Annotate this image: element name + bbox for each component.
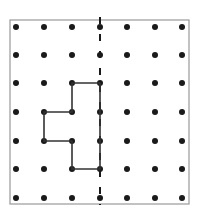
grid-dot [97, 195, 103, 201]
grid-dot [13, 24, 19, 30]
grid-dot [69, 24, 75, 30]
grid-dot [69, 195, 75, 201]
grid-dot [13, 195, 19, 201]
grid-dot [179, 166, 185, 172]
half-shape-polygon [44, 83, 100, 169]
grid-dot [124, 109, 130, 115]
grid-dot [41, 195, 47, 201]
grid-dot [69, 52, 75, 58]
grid-dot [41, 52, 47, 58]
grid-dot [124, 52, 130, 58]
grid-dot [179, 80, 185, 86]
grid-dot [152, 138, 158, 144]
grid-dot [152, 109, 158, 115]
grid-dot [13, 138, 19, 144]
grid-dot [13, 166, 19, 172]
grid-dot [124, 24, 130, 30]
grid-dot [179, 195, 185, 201]
grid-dot [152, 52, 158, 58]
grid-dot [179, 109, 185, 115]
grid-dot [41, 24, 47, 30]
grid-dot [179, 24, 185, 30]
grid-dot [179, 138, 185, 144]
grid-dot [152, 24, 158, 30]
grid-dot [13, 109, 19, 115]
grid-dot [124, 80, 130, 86]
grid-dot [124, 195, 130, 201]
grid-dot [179, 52, 185, 58]
grid-dot [41, 80, 47, 86]
grid-dot [152, 166, 158, 172]
grid-dot [97, 24, 103, 30]
grid-dot [13, 80, 19, 86]
grid-dot [124, 138, 130, 144]
grid-dot [152, 80, 158, 86]
grid-dot [13, 52, 19, 58]
dot-grid-diagram [0, 0, 198, 217]
grid-dot [152, 195, 158, 201]
grid-dot [124, 166, 130, 172]
grid-dot [41, 166, 47, 172]
